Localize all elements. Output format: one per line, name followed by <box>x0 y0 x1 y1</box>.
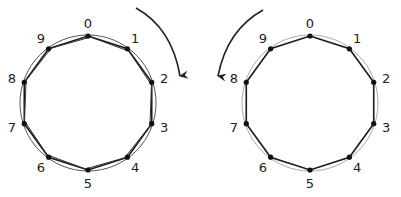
vertex-node <box>307 33 312 38</box>
vertex-node <box>244 121 249 126</box>
vertex-node <box>125 46 130 51</box>
vertex-node <box>149 80 154 85</box>
vertex-label: 9 <box>37 31 45 46</box>
vertex-label: 1 <box>131 31 139 46</box>
vertex-node <box>85 33 90 38</box>
vertex-label: 8 <box>8 71 16 86</box>
vertex-node <box>22 121 27 126</box>
vertex-label: 4 <box>131 160 139 175</box>
decagon <box>246 36 373 170</box>
vertex-label: 0 <box>306 16 314 31</box>
vertex-node <box>371 121 376 126</box>
vertex-label: 3 <box>382 120 390 135</box>
vertex-node <box>244 80 249 85</box>
vertex-label: 3 <box>160 120 168 135</box>
vertex-node <box>46 155 51 160</box>
rotation-diagrams: 0123456789 0123456789 <box>0 0 401 197</box>
vertex-node <box>46 46 51 51</box>
vertex-label: 2 <box>160 71 168 86</box>
vertex-label: 4 <box>353 160 361 175</box>
rotation-arrow-icon <box>218 10 263 76</box>
vertex-label: 6 <box>37 160 45 175</box>
left-decagon-clockwise: 0123456789 <box>8 8 180 191</box>
vertex-label: 5 <box>84 176 92 191</box>
vertex-node <box>268 155 273 160</box>
vertex-label: 9 <box>259 31 267 46</box>
vertex-label: 7 <box>8 120 16 135</box>
vertex-label: 8 <box>230 71 238 86</box>
rotation-arrow-icon <box>136 8 180 76</box>
vertex-node <box>149 121 154 126</box>
vertex-node <box>307 167 312 172</box>
guide-circle <box>20 35 156 171</box>
vertex-node <box>125 155 130 160</box>
vertex-node <box>268 46 273 51</box>
vertex-label: 1 <box>353 31 361 46</box>
right-decagon-counterclockwise: 0123456789 <box>218 10 390 191</box>
guide-circle <box>242 35 378 171</box>
vertex-label: 6 <box>259 160 267 175</box>
vertex-label: 5 <box>306 176 314 191</box>
vertex-node <box>371 80 376 85</box>
vertex-label: 0 <box>84 16 92 31</box>
vertex-node <box>347 155 352 160</box>
vertex-node <box>22 80 27 85</box>
vertex-label: 2 <box>382 71 390 86</box>
vertex-label: 7 <box>230 120 238 135</box>
vertex-node <box>85 167 90 172</box>
vertex-node <box>347 46 352 51</box>
